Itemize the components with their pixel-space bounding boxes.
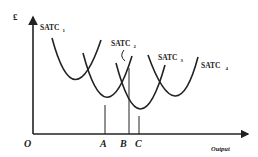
cost-curves-diagram: £ SATC1 SATC2 SATC3 SATC4 O A B C Output — [0, 0, 258, 157]
origin-label: O — [24, 138, 31, 149]
y-axis-label: £ — [13, 12, 18, 22]
satc4-label: SATC4 — [201, 61, 228, 71]
satc1-label: SATC1 — [40, 23, 65, 33]
point-b-label: B — [119, 138, 127, 149]
satc1-curve — [52, 38, 101, 80]
point-a-label: A — [99, 138, 107, 149]
x-axis-label: Output — [211, 145, 230, 152]
satc2-pointer-icon — [122, 50, 125, 61]
satc2-label: SATC2 — [111, 39, 136, 49]
satc3-label: SATC3 — [158, 53, 183, 63]
point-c-label: C — [135, 138, 142, 149]
satc3-curve — [116, 63, 165, 109]
